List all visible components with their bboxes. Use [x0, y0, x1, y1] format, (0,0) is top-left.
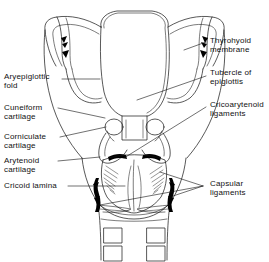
leader-cuneiform-cartilage: [58, 108, 105, 118]
label-cricoid-lamina: Cricoid lamina: [4, 181, 57, 190]
label-aryepiglottic-fold: Aryepiglottic fold: [4, 72, 50, 91]
label-arytenoid-cartilage: Arytenoid cartilage: [4, 156, 39, 175]
label-capsular-ligaments: Capsular ligaments: [210, 179, 246, 198]
capsular-ligament-left: [93, 178, 101, 212]
capsular-ligament-right: [168, 178, 176, 212]
cricoid-lamina: [101, 155, 166, 213]
cricoid-hatching-left: [104, 166, 118, 194]
leader-lines: [58, 42, 206, 205]
thyrohyoid-membrane-left: [45, 16, 101, 66]
label-cricoarytenoid-ligaments: Cricoarytenoid ligaments: [210, 100, 264, 119]
interarytenoid-column: [122, 116, 147, 140]
leader-thyrohyoid-membrane: [184, 42, 206, 50]
tracheal-ring-right-2: [147, 246, 165, 261]
leader-arytenoid-cartilage: [58, 157, 100, 161]
leader-tubercle-epiglottis: [137, 76, 206, 100]
label-thyrohyoid-membrane: Thyrohyoid membrane: [210, 36, 251, 55]
cricoid-hatching-right: [150, 166, 164, 194]
label-corniculate-cartilage: Corniculate cartilage: [4, 132, 46, 151]
leader-capsular-3: [100, 186, 203, 205]
corniculate-cartilage-right: [146, 119, 164, 141]
tracheal-ring-left-1: [104, 228, 122, 243]
inferior-horn-left: [98, 205, 131, 212]
label-cuneiform-cartilage: Cuneiform cartilage: [4, 103, 42, 122]
thyroid-lamina-left: [44, 30, 102, 158]
label-tubercle-of-epiglottis: Tubercle of epiglottis: [210, 68, 251, 87]
tracheal-ring-right-1: [147, 228, 165, 243]
tracheal-ring-left-2: [104, 246, 122, 261]
corniculate-cartilage-left: [105, 119, 123, 141]
epiglottis-outline: [100, 11, 169, 116]
anatomy-figure: Aryepiglottic fold Cuneiform cartilage C…: [0, 0, 269, 262]
leader-cricoarytenoid-ligaments: [124, 107, 206, 158]
inferior-horn-right: [137, 205, 170, 212]
leader-corniculate-cartilage: [60, 127, 106, 137]
